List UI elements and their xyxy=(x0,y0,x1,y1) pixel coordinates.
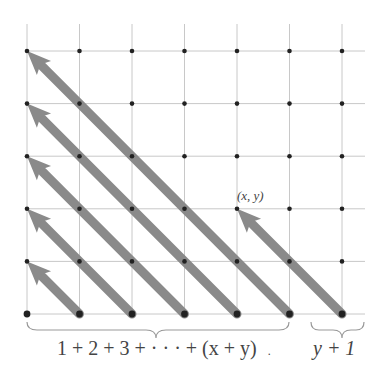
lattice-point xyxy=(130,154,135,159)
lattice-point xyxy=(24,311,31,318)
point-label-xy: (x, y) xyxy=(237,188,264,204)
lattice-point xyxy=(235,101,240,106)
lattice-point xyxy=(287,259,292,264)
lattice-point xyxy=(182,49,187,54)
lattice-diagram xyxy=(0,0,385,383)
lattice-point xyxy=(340,101,345,106)
lattice-point xyxy=(339,311,346,318)
lattice-point xyxy=(77,49,82,54)
lattice-point xyxy=(287,207,292,212)
lattice-point xyxy=(340,49,345,54)
left-brace xyxy=(27,322,289,338)
braces xyxy=(27,322,364,338)
arrow-shaft xyxy=(43,277,80,314)
lattice-point xyxy=(130,207,135,212)
lattice-point xyxy=(235,207,240,212)
lattice-point xyxy=(234,311,241,318)
lattice-point xyxy=(235,49,240,54)
lattice-point xyxy=(182,259,187,264)
lattice-point xyxy=(340,154,345,159)
lattice-point xyxy=(235,154,240,159)
lattice-point xyxy=(25,207,30,212)
lattice-point xyxy=(287,154,292,159)
lattice-point xyxy=(77,101,82,106)
lattice-point xyxy=(77,207,82,212)
lattice-point xyxy=(235,259,240,264)
lattice-point xyxy=(286,311,293,318)
arrow-shaft xyxy=(43,224,132,314)
lattice-point xyxy=(76,311,83,318)
arrow-shaft xyxy=(43,119,237,314)
lattice-point xyxy=(25,49,30,54)
lattice-point xyxy=(77,154,82,159)
lattice-point xyxy=(340,259,345,264)
lattice-point xyxy=(182,207,187,212)
lattice-point xyxy=(181,311,188,318)
lattice-point xyxy=(287,101,292,106)
sum-trailing-dot: . xyxy=(268,344,271,358)
lattice-point xyxy=(287,49,292,54)
lattice-point xyxy=(340,207,345,212)
lattice-point xyxy=(129,311,136,318)
left-brace-label: 1 + 2 + 3 + · · · + (x + y) . xyxy=(57,337,271,360)
lattice-point xyxy=(130,259,135,264)
lattice-point xyxy=(25,101,30,106)
right-brace-label: y + 1 xyxy=(313,337,355,360)
lattice-point xyxy=(130,49,135,54)
arrow-shaft xyxy=(253,224,342,314)
right-brace xyxy=(311,322,364,338)
lattice-point xyxy=(182,101,187,106)
lattice-point xyxy=(25,154,30,159)
lattice-point xyxy=(130,101,135,106)
lattice-point xyxy=(77,259,82,264)
lattice-point xyxy=(182,154,187,159)
sum-expression: 1 + 2 + 3 + · · · + (x + y) xyxy=(57,337,257,359)
lattice-point xyxy=(25,259,30,264)
